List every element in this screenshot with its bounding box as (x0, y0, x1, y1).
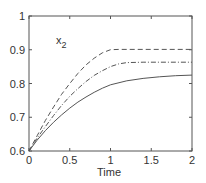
y-tick-label: 0.8 (10, 78, 25, 90)
x-tick-label: 0.5 (62, 154, 77, 166)
y-tick-label: 0.9 (10, 44, 25, 56)
line-chart: 00.511.52 0.60.70.80.91 Time x2 (0, 0, 206, 183)
plot-background (29, 16, 192, 151)
x-axis-label: Time (97, 166, 121, 178)
x-tick-label: 1 (107, 154, 113, 166)
x-tick-label: 1.5 (144, 154, 159, 166)
y-tick-label: 1 (19, 10, 25, 22)
annotation-subscript: 2 (62, 40, 67, 50)
x-tick-label: 2 (189, 154, 195, 166)
x-tick-label: 0 (26, 154, 32, 166)
y-tick-label: 0.6 (10, 145, 25, 157)
y-tick-label: 0.7 (10, 111, 25, 123)
